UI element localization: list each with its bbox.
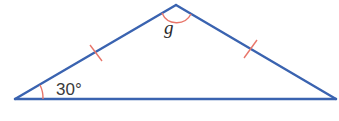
apex-angle-label: g	[164, 17, 174, 38]
base-angle-label: 30°	[56, 80, 82, 99]
triangle-diagram: 30° g	[0, 0, 339, 121]
equal-side-tick-right	[244, 40, 257, 58]
base-angle-arc	[40, 85, 43, 99]
right-side	[176, 5, 336, 99]
